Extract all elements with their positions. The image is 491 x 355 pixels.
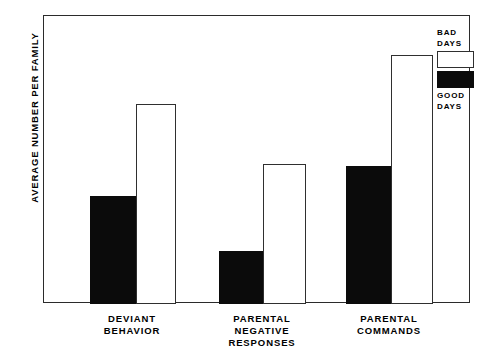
plot-area <box>43 15 470 303</box>
bar-bad-days <box>136 104 176 304</box>
x-axis-group-label: DEVIANT BEHAVIOR <box>72 313 192 337</box>
bar-good-days <box>346 166 391 304</box>
bar-good-days <box>90 196 136 304</box>
legend-label-good-days: GOOD DAYS <box>437 91 487 112</box>
bar-bad-days <box>391 55 433 304</box>
x-axis-group-label: PARENTAL NEGATIVE RESPONSES <box>202 313 322 349</box>
bar-bad-days <box>263 164 306 304</box>
legend-swatch-bad-days <box>437 51 474 68</box>
bar-good-days <box>219 251 263 304</box>
y-axis-title: AVERAGE NUMBER PER FAMILY <box>29 18 40 218</box>
legend-swatch-good-days <box>437 71 474 88</box>
x-axis-group-label: PARENTAL COMMANDS <box>329 313 449 337</box>
bar-chart: AVERAGE NUMBER PER FAMILY 15012510075502… <box>0 0 491 355</box>
legend: BAD DAYS GOOD DAYS <box>437 28 487 112</box>
legend-label-bad-days: BAD DAYS <box>437 28 487 49</box>
